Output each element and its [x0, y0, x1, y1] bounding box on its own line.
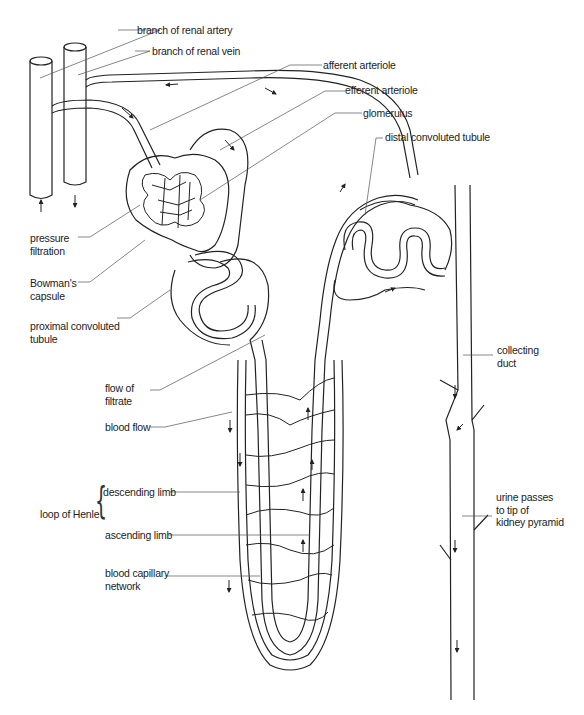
label-urine-passes: urine passes to tip of kidney pyramid — [496, 491, 564, 529]
proximal-tubule — [171, 251, 269, 345]
label-line: kidney pyramid — [496, 516, 564, 529]
label-renal-vein: branch of renal vein — [152, 45, 240, 58]
label-line: collecting — [497, 344, 539, 357]
label-glomerulus: glomerulus — [363, 107, 412, 120]
label-line: flow of — [105, 382, 134, 395]
label-line: filtration — [30, 245, 69, 258]
label-ascending-limb: ascending limb — [105, 529, 172, 542]
label-line: capsule — [30, 290, 77, 303]
label-line: Bowman's — [30, 277, 77, 290]
label-line: network — [105, 580, 169, 593]
label-renal-artery: branch of renal artery — [137, 24, 232, 37]
label-loop-of-henle: loop of Henle — [40, 508, 99, 521]
label-line: proximal convoluted — [30, 320, 120, 333]
bowmans-capsule-shape — [126, 154, 229, 251]
distal-tubule — [334, 201, 452, 300]
label-line: urine passes — [496, 491, 564, 504]
label-descending-limb: descending limb — [103, 486, 176, 499]
label-line: tubule — [30, 333, 120, 346]
label-pressure-filtration: pressure filtration — [30, 232, 69, 257]
label-afferent-arteriole: afferent arteriole — [323, 59, 396, 72]
label-capillary-network: blood capillary network — [105, 567, 169, 592]
renal-artery-vessel — [30, 57, 52, 199]
label-line: filtrate — [105, 395, 134, 408]
label-line: blood capillary — [105, 567, 169, 580]
label-efferent-arteriole: efferent arteriole — [345, 84, 418, 97]
label-blood-flow: blood flow — [105, 421, 150, 434]
label-distal-tubule: distal convoluted tubule — [385, 131, 490, 144]
label-bowmans-capsule: Bowman's capsule — [30, 277, 77, 302]
label-line: to tip of — [496, 504, 564, 517]
collecting-duct — [440, 185, 488, 700]
glomerulus-mesh — [142, 172, 204, 228]
loop-of-henle — [250, 320, 330, 655]
label-proximal-tubule: proximal convoluted tubule — [30, 320, 120, 345]
label-line: pressure — [30, 232, 69, 245]
label-collecting-duct: collecting duct — [497, 344, 539, 369]
capillary-envelope — [237, 360, 343, 670]
label-line: duct — [497, 357, 539, 370]
label-flow-of-filtrate: flow of filtrate — [105, 382, 134, 407]
